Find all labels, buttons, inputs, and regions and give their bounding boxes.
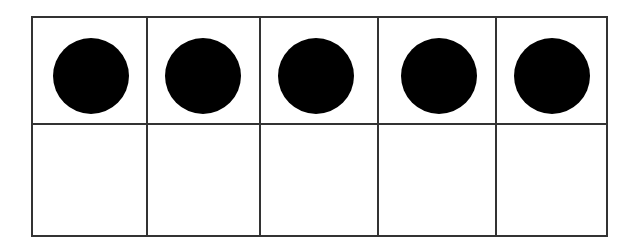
cell-r2-c1 (33, 125, 146, 235)
counter-4 (401, 38, 477, 114)
cell-r2-c4 (379, 125, 495, 235)
counter-5 (514, 38, 590, 114)
cell-r2-c5 (497, 125, 606, 235)
cell-r2-c3 (261, 125, 377, 235)
counter-1 (53, 38, 129, 114)
cell-r2-c2 (148, 125, 259, 235)
counter-3 (278, 38, 354, 114)
counter-2 (165, 38, 241, 114)
